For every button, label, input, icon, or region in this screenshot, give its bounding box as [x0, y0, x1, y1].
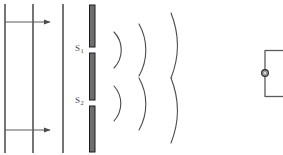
- barrier-segment-middle: [90, 53, 96, 100]
- arc-s1-1: [114, 32, 121, 68]
- double-slit-barrier: [90, 5, 96, 152]
- arc-s2-2: [139, 78, 146, 130]
- detector-node-highlight: [264, 72, 266, 74]
- slit-label-s2: S2: [75, 96, 84, 107]
- arc-s2-1: [114, 86, 121, 121]
- circular-wavefront-group-s2: [114, 78, 177, 143]
- arc-s1-3: [171, 13, 177, 78]
- diagram-canvas: S1 S2: [0, 0, 283, 155]
- propagation-arrow-group: [5, 22, 50, 130]
- plane-wavefront-group: [5, 4, 63, 153]
- arc-s2-3: [171, 78, 177, 143]
- barrier-segment-bottom: [90, 106, 96, 152]
- slit-label-s1: S1: [75, 44, 84, 55]
- diagram-svg: [0, 0, 283, 155]
- slit-label-s1-subscript: 1: [80, 47, 84, 54]
- arc-s1-2: [139, 24, 146, 76]
- barrier-segment-top: [90, 5, 96, 47]
- circular-wavefront-group-s1: [114, 13, 177, 78]
- slit-label-s2-subscript: 2: [80, 99, 84, 106]
- detector-symbol: [262, 50, 283, 97]
